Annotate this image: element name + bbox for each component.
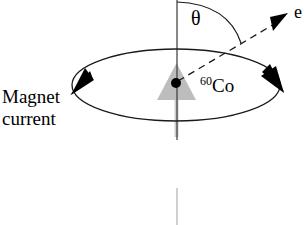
cobalt-mass-number: 60 <box>200 74 212 88</box>
electron-label: e <box>294 3 302 21</box>
electron-emission-line <box>178 23 276 81</box>
cobalt-nucleus-dot <box>171 78 181 88</box>
magnet-current-arrowhead-left-fill <box>71 68 94 95</box>
cobalt-60-label: 60Co <box>200 76 234 95</box>
parity-violation-diagram: Magnet current θ 60Co e <box>0 0 308 225</box>
magnet-current-label: Magnet current <box>2 86 60 130</box>
theta-angle-arc <box>177 2 241 43</box>
cobalt-element-symbol: Co <box>212 75 234 96</box>
theta-angle-label: θ <box>191 8 201 28</box>
electron-arrowhead-icon <box>270 13 288 31</box>
magnet-current-label-line2: current <box>2 108 60 130</box>
magnet-current-label-line1: Magnet <box>2 86 60 108</box>
